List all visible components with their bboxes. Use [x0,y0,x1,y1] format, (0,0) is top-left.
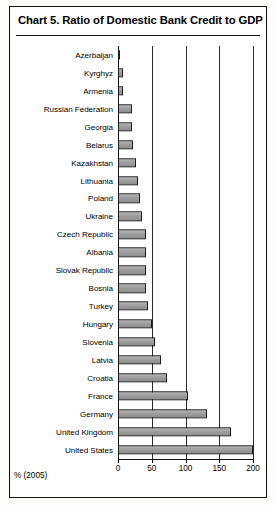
chart-frame: Chart 5. Ratio of Domestic Bank Credit t… [9,6,267,498]
bar [118,86,123,95]
bar [118,391,188,400]
bar [118,355,161,364]
title-divider [16,35,260,36]
category-label: Russian Federation [44,104,113,113]
bar [118,319,152,328]
bar-row: United Kingdom [118,423,253,441]
bar [118,50,120,59]
tick-label-200: 200 [246,464,260,473]
tick-label-0: 0 [116,464,121,473]
bar-row: France [118,387,253,405]
bar-row: Croatia [118,369,253,387]
tick-150 [219,459,220,463]
bar [118,337,155,346]
bar [118,373,167,382]
category-label: Bosnia [89,284,113,293]
category-label: Ukraine [85,212,113,221]
tick-label-100: 100 [179,464,193,473]
bar-rows: AzerbaijanKyrghyzArmeniaRussian Federati… [118,46,253,459]
category-label: Czech Republic [57,230,113,239]
category-label: United States [65,445,113,454]
plot-area: AzerbaijanKyrghyzArmeniaRussian Federati… [10,38,265,496]
bar [118,427,231,436]
tick-0 [118,459,119,463]
bar [118,445,253,454]
category-label: Croatia [87,373,113,382]
bar [118,122,132,131]
bar-row: Germany [118,405,253,423]
gridline-200 [253,46,254,459]
chart-page: Chart 5. Ratio of Domestic Bank Credit t… [0,0,276,506]
bar-row: Albania [118,243,253,261]
bar [118,248,146,257]
category-label: France [88,391,113,400]
bar-row: Bosnia [118,279,253,297]
bar-row: Armenia [118,82,253,100]
category-label: Georgia [85,122,113,131]
x-axis-ticks: 050100150200 [118,459,253,489]
tick-label-50: 50 [147,464,156,473]
bar [118,266,146,275]
bar [118,212,142,221]
category-label: Hungary [83,320,113,329]
bar [118,140,133,149]
category-label: Albania [86,248,113,257]
category-label: Belarus [86,140,113,149]
bar [118,301,148,310]
axis-area: AzerbaijanKyrghyzArmeniaRussian Federati… [118,46,253,459]
category-label: Lithuania [81,176,113,185]
category-label: Slovak Republic [56,266,113,275]
bar [118,158,136,167]
bar-row: Ukraine [118,207,253,225]
bar [118,409,207,418]
bar [118,194,140,203]
category-label: Azerbaijan [75,50,113,59]
x-axis-title: % (2005) [14,471,47,480]
bar-row: Kazakhstan [118,154,253,172]
bar [118,283,146,292]
bar-row: Belarus [118,136,253,154]
category-label: Turkey [89,302,113,311]
category-label: United Kingdom [56,427,113,436]
bar-row: Latvia [118,351,253,369]
tick-50 [152,459,153,463]
category-label: Poland [88,194,113,203]
bar [118,68,123,77]
bar-row: Czech Republic [118,225,253,243]
bar-row: Hungary [118,315,253,333]
category-label: Kazakhstan [71,158,113,167]
bar-row: Azerbaijan [118,46,253,64]
bar [118,230,146,239]
bar-row: Poland [118,190,253,208]
bar [118,176,138,185]
tick-label-150: 150 [212,464,226,473]
bar-row: Slovenia [118,333,253,351]
bar-row: Slovak Republic [118,261,253,279]
tick-200 [253,459,254,463]
category-label: Germany [80,409,113,418]
bar-row: Lithuania [118,172,253,190]
category-label: Armenia [83,86,113,95]
bar-row: Russian Federation [118,100,253,118]
category-label: Latvia [92,355,113,364]
bar-row: Turkey [118,297,253,315]
bar-row: Georgia [118,118,253,136]
bar-row: Kyrghyz [118,64,253,82]
category-label: Slovenia [82,337,113,346]
category-label: Kyrghyz [84,68,113,77]
bar [118,104,132,113]
page-title: Chart 5. Ratio of Domestic Bank Credit t… [10,7,266,34]
bar-row: United States [118,441,253,459]
tick-100 [186,459,187,463]
